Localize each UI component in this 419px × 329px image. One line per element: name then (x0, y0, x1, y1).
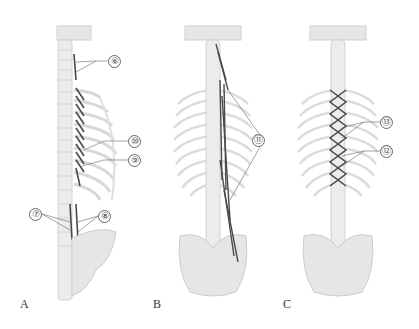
panel-letter-c: C (283, 297, 291, 312)
panel-letter-b: B (153, 297, 161, 312)
callout-13: ⑬ (380, 116, 393, 129)
callout-6: ⑥ (108, 55, 121, 68)
panel-b: ⑪ B (140, 0, 280, 329)
panel-c: ⑬ ⑫ C (280, 0, 419, 329)
spine-posterior-illustration-b (140, 0, 280, 329)
spine-posterior-illustration-c (280, 0, 419, 329)
callout-12: ⑫ (380, 145, 393, 158)
callout-11: ⑪ (252, 134, 265, 147)
spine-lateral-illustration (0, 0, 140, 329)
panel-a: ⑥ ⑩ ⑨ ⑦ ⑧ A (0, 0, 140, 329)
callout-7: ⑦ (29, 208, 42, 221)
panel-letter-a: A (20, 297, 29, 312)
callout-8: ⑧ (98, 210, 111, 223)
